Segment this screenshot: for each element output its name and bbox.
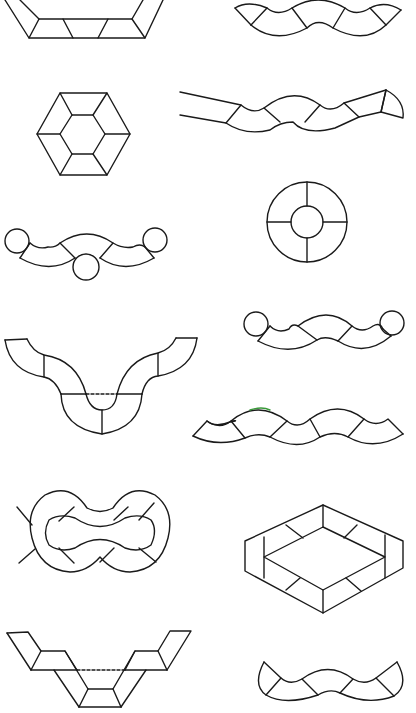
wave-band-three-circles [5,228,167,280]
crescent-wave-band [258,662,402,701]
double-trapezoid-frame [7,631,191,707]
u-curve-band [5,338,197,434]
wave-band-with-wedges [180,90,403,132]
figure-sheet [0,0,416,713]
hexagon-ring [37,93,130,175]
long-wave-band [193,408,403,445]
annulus-four-segments [267,182,347,262]
wave-band-two-circles [244,311,404,349]
figure-eight-ring [17,491,170,572]
wave-band-top [235,0,401,36]
rhombus-frame [245,505,403,613]
trapezoid-frame-top [5,0,163,38]
